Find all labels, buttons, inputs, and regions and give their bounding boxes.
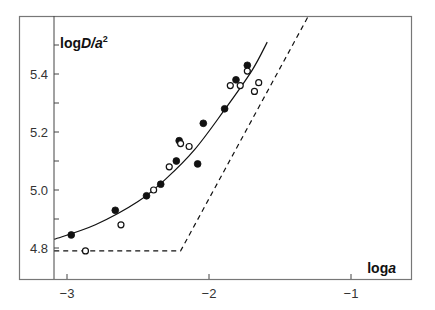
open-data-point xyxy=(237,83,243,89)
plot-frame xyxy=(20,17,412,280)
y-tick-label: 5.2 xyxy=(30,125,48,140)
filled-data-point xyxy=(200,120,207,127)
filled-data-point xyxy=(112,207,119,214)
x-axis-title-var: a xyxy=(388,260,396,276)
open-data-point xyxy=(244,68,250,74)
open-data-point xyxy=(178,141,184,147)
x-axis-title-prefix: log xyxy=(367,260,388,276)
filled-data-point xyxy=(157,181,164,188)
x-tick-label: −1 xyxy=(344,286,359,301)
open-data-point xyxy=(82,248,88,254)
filled-data-point xyxy=(221,105,228,112)
open-data-point xyxy=(227,83,233,89)
x-tick-label: −3 xyxy=(60,286,75,301)
filled-data-point xyxy=(68,232,75,239)
open-data-point xyxy=(166,164,172,170)
y-tick-label: 5.4 xyxy=(30,67,48,82)
open-data-point xyxy=(118,222,124,228)
fit-curve xyxy=(54,42,267,239)
open-data-point xyxy=(151,187,157,193)
y-tick-label: 4.8 xyxy=(30,241,48,256)
x-axis-title: loga xyxy=(367,260,396,276)
filled-data-point xyxy=(194,161,201,168)
x-tick-label: −2 xyxy=(202,286,217,301)
y-axis-title: logD/a2 xyxy=(60,34,108,51)
open-data-point xyxy=(256,80,262,86)
y-axis-title-var: D/a xyxy=(81,35,103,51)
limit-dashed-line xyxy=(54,16,308,251)
filled-data-point xyxy=(173,158,180,165)
y-tick-label: 5.0 xyxy=(30,183,48,198)
chart: −3−2−1 4.85.05.25.4 loga logD/a2 xyxy=(0,0,435,310)
filled-data-point xyxy=(233,76,240,83)
filled-data-point xyxy=(143,192,150,199)
open-data-point xyxy=(186,144,192,150)
y-axis-title-sup: 2 xyxy=(103,34,108,44)
y-axis-title-prefix: log xyxy=(60,35,81,51)
open-data-point xyxy=(251,88,257,94)
